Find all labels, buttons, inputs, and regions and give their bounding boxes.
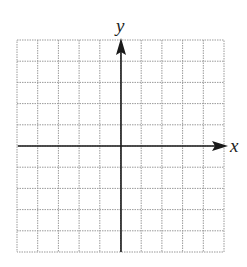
coordinate-grid: x y: [0, 0, 247, 267]
y-axis-label: y: [114, 15, 125, 36]
x-axis-label: x: [229, 135, 239, 156]
